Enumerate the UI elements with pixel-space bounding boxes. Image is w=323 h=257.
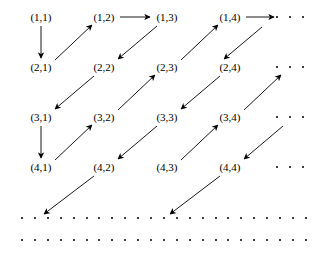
dot-row-6-dot-11: [150, 239, 152, 241]
dot-row-5-dot-3: [47, 217, 49, 219]
node-label-2-1: (2,1): [29, 62, 52, 73]
row-3-ellipsis-dot-2: [289, 116, 291, 118]
dot-row-6-dot-16: [215, 239, 217, 241]
row-4-ellipsis-dot-3: [302, 166, 304, 168]
dot-row-5-dot-19: [253, 217, 255, 219]
node-label-4-2: (4,2): [92, 162, 115, 173]
dot-row-6-dot-6: [86, 239, 88, 241]
arrow-3-4-to-2-5-icon: [244, 75, 281, 110]
row-2-ellipsis-dot-2: [289, 66, 291, 68]
node-label-4-1: (4,1): [29, 162, 52, 173]
dot-row-6-dot-12: [163, 239, 165, 241]
dot-row-6-dot-15: [202, 239, 204, 241]
row-4-ellipsis-dot-1: [276, 166, 278, 168]
dot-row-5-dot-9: [124, 217, 126, 219]
cantor-diagonal-diagram: (1,1)(1,2)(1,3)(1,4)(2,1)(2,2)(2,3)(2,4)…: [0, 0, 323, 257]
dot-row-5-dot-14: [189, 217, 191, 219]
row-4-ellipsis-dot-2: [289, 166, 291, 168]
arrow-1-3-to-2-2-icon: [118, 26, 157, 59]
dot-row-6-dot-4: [60, 239, 62, 241]
dot-row-5-dot-17: [227, 217, 229, 219]
dot-row-5-dot-10: [137, 217, 139, 219]
arrow-4-4-to-dots-icon: [170, 176, 220, 214]
row-2-ellipsis-dot-3: [302, 66, 304, 68]
row-3-ellipsis-dot-3: [302, 116, 304, 118]
dot-row-6-dot-19: [253, 239, 255, 241]
dot-row-5-dot-2: [34, 217, 36, 219]
row-3-ellipsis-dot-1: [276, 116, 278, 118]
node-label-3-1: (3,1): [29, 112, 52, 123]
node-label-3-4: (3,4): [218, 112, 241, 123]
dot-row-6-dot-9: [124, 239, 126, 241]
dot-row-5-dot-5: [73, 217, 75, 219]
node-label-1-4: (1,4): [218, 12, 241, 23]
node-label-4-3: (4,3): [155, 162, 178, 173]
node-label-3-2: (3,2): [92, 112, 115, 123]
dot-row-5-dot-4: [60, 217, 62, 219]
dot-row-5-dot-15: [202, 217, 204, 219]
arrow-2-4-to-3-3-icon: [181, 76, 220, 109]
dot-row-6-dot-14: [189, 239, 191, 241]
dot-row-6-dot-13: [176, 239, 178, 241]
dot-row-5-dot-7: [98, 217, 100, 219]
dot-row-6-dot-5: [73, 239, 75, 241]
dot-row-6-dot-10: [137, 239, 139, 241]
dot-row-5-dot-6: [86, 217, 88, 219]
arrow-2-2-to-3-1-icon: [55, 76, 94, 109]
node-label-1-1: (1,1): [29, 12, 52, 23]
arrow-2-3-to-1-4-icon: [181, 25, 218, 60]
dot-row-6-dot-7: [98, 239, 100, 241]
dot-row-6-dot-23: [305, 239, 307, 241]
dot-row-6-dot-17: [227, 239, 229, 241]
arrow-4-1-to-3-2-icon: [55, 125, 92, 160]
dot-row-5-dot-21: [279, 217, 281, 219]
arrow-3-3-to-4-2-icon: [118, 126, 157, 159]
node-label-2-4: (2,4): [218, 62, 241, 73]
arrow-4-2-to-dots-icon: [44, 176, 94, 214]
dot-row-6-dot-2: [34, 239, 36, 241]
node-label-1-2: (1,2): [92, 12, 115, 23]
arrow-2-1-to-1-2-icon: [55, 25, 92, 60]
row-1-ellipsis-dot-2: [289, 16, 291, 18]
row-1-ellipsis-dot-3: [302, 16, 304, 18]
dot-row-6-dot-20: [266, 239, 268, 241]
dot-row-5-dot-23: [305, 217, 307, 219]
dot-row-5-dot-13: [176, 217, 178, 219]
dot-row-5-dot-18: [240, 217, 242, 219]
node-label-4-4: (4,4): [218, 162, 241, 173]
dot-row-5-dot-22: [292, 217, 294, 219]
dot-row-6-dot-8: [111, 239, 113, 241]
node-label-1-3: (1,3): [155, 12, 178, 23]
dot-row-6-dot-21: [279, 239, 281, 241]
node-label-2-2: (2,2): [92, 62, 115, 73]
dot-row-6-dot-18: [240, 239, 242, 241]
arrow-3-2-to-2-3-icon: [118, 75, 155, 110]
row-1-ellipsis-dot-1: [276, 16, 278, 18]
row-2-ellipsis-dot-1: [276, 66, 278, 68]
dot-row-5-dot-12: [163, 217, 165, 219]
arrow-4-3-to-3-4-icon: [181, 125, 218, 160]
dot-row-5-dot-11: [150, 217, 152, 219]
dot-row-5-dot-20: [266, 217, 268, 219]
node-label-3-3: (3,3): [155, 112, 178, 123]
dot-row-5-dot-1: [21, 217, 23, 219]
arrow-1-5-to-2-4-icon: [224, 27, 262, 59]
dot-row-5-dot-8: [111, 217, 113, 219]
dot-row-6-dot-22: [292, 239, 294, 241]
dot-row-6-dot-1: [21, 239, 23, 241]
dot-row-5-dot-16: [215, 217, 217, 219]
arrow-2-5-to-4-4-icon: [244, 126, 283, 159]
dot-row-6-dot-3: [47, 239, 49, 241]
node-label-2-3: (2,3): [155, 62, 178, 73]
